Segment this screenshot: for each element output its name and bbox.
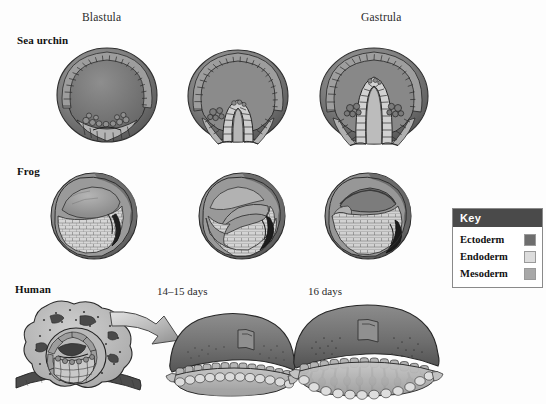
column-header-blastula: Blastula <box>82 11 121 23</box>
legend-item-ectoderm: Ectoderm <box>460 231 536 248</box>
legend-label-endoderm: Endoderm <box>460 251 508 262</box>
legend-swatch-mesoderm <box>524 268 536 280</box>
legend-item-endoderm: Endoderm <box>460 248 536 265</box>
legend-item-mesoderm: Mesoderm <box>460 265 536 282</box>
stage-label-16-days: 16 days <box>308 285 342 297</box>
legend-label-mesoderm: Mesoderm <box>460 268 508 279</box>
specimen-frog-gastrula <box>322 172 414 260</box>
legend-swatch-ectoderm <box>524 234 536 246</box>
stage-label-14-15-days: 14–15 days <box>157 285 207 297</box>
specimen-sea-urchin-gastrula <box>318 46 430 146</box>
legend-label-ectoderm: Ectoderm <box>460 234 504 245</box>
embryo-development-figure: Blastula Gastrula Sea urchin Frog Human … <box>0 0 546 404</box>
column-header-gastrula: Gastrula <box>361 11 402 23</box>
specimen-sea-urchin-blastula <box>55 46 160 144</box>
specimen-frog-blastula <box>48 172 140 260</box>
legend-title: Key <box>453 209 542 227</box>
specimen-human-14-15-days <box>164 306 300 400</box>
specimen-human-16-days <box>286 298 446 400</box>
specimen-frog-mid-gastrula <box>196 172 288 260</box>
row-label-frog: Frog <box>17 165 40 177</box>
key-legend: Key Ectoderm Endoderm Mesoderm <box>452 208 543 288</box>
row-label-sea-urchin: Sea urchin <box>17 34 68 46</box>
specimen-sea-urchin-mid-gastrula <box>186 48 290 145</box>
row-label-human: Human <box>15 283 51 295</box>
legend-swatch-endoderm <box>524 251 536 263</box>
legend-body: Ectoderm Endoderm Mesoderm <box>453 227 542 287</box>
